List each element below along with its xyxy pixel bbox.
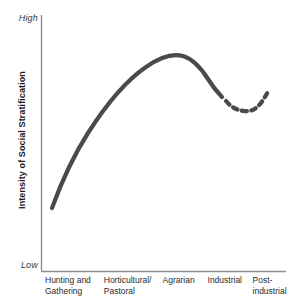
x-tick-label-agrarian: Agrarian (161, 275, 206, 286)
dashed-projection-curve (226, 92, 268, 111)
solid-trend-curve (52, 55, 222, 208)
y-axis-high-label: High (14, 13, 38, 23)
chart-plot-area (0, 0, 299, 308)
y-axis-title: Intensity of Social Stratification (17, 60, 27, 220)
x-tick-label-industrial: Industrial (206, 275, 251, 286)
y-axis-low-label: Low (14, 260, 38, 270)
x-tick-label-post-industrial: Post- industrial (251, 275, 291, 296)
x-tick-label-horticultural-pastoral: Horticultural/ Pastoral (102, 275, 161, 296)
x-axis-tick-labels: Hunting and Gathering Horticultural/ Pas… (41, 275, 291, 305)
x-tick-label-hunting-and-gathering: Hunting and Gathering (41, 275, 102, 296)
social-stratification-chart: High Low Intensity of Social Stratificat… (0, 0, 299, 308)
